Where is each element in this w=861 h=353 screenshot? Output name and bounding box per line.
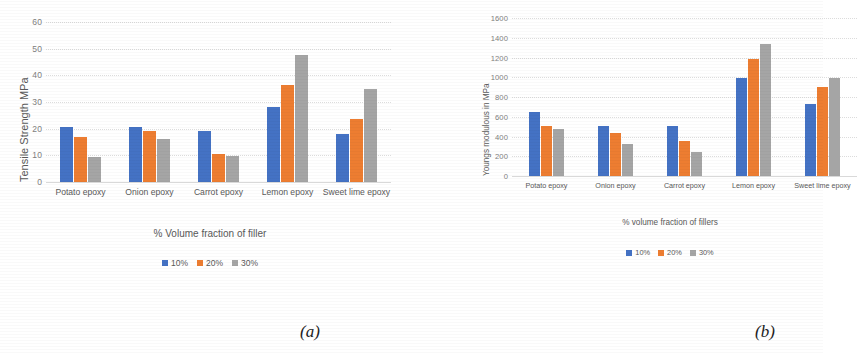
legend-label: 10% <box>171 258 188 268</box>
bar-group <box>512 18 581 176</box>
legend-label: 20% <box>667 248 682 257</box>
bar-group <box>322 22 391 182</box>
legend-swatch-icon <box>197 260 203 266</box>
legend-item: 20% <box>197 258 223 268</box>
bar-30pct <box>157 139 170 182</box>
y-axis-tick-label: 60 <box>32 17 42 27</box>
bar-10pct <box>60 127 73 182</box>
bar-10pct <box>529 112 540 176</box>
y-axis-tick-label: 1200 <box>491 53 508 62</box>
plot-area-b: 02004006008001000120014001600 <box>512 18 857 176</box>
legend-label: 10% <box>635 248 650 257</box>
y-axis-tick-label: 1000 <box>491 73 508 82</box>
bar-10pct <box>336 134 349 182</box>
y-axis-tick-label: 1600 <box>491 14 508 23</box>
y-axis-tick-label: 1400 <box>491 33 508 42</box>
y-axis-tick-label: 50 <box>32 44 42 54</box>
x-axis-line <box>512 176 857 177</box>
legend-item: 30% <box>232 258 258 268</box>
bar-10pct <box>736 78 747 176</box>
bar-10pct <box>129 127 142 182</box>
bar-group <box>581 18 650 176</box>
bar-20pct <box>541 126 552 176</box>
y-axis-tick-label: 600 <box>495 112 508 121</box>
bar-20pct <box>281 85 294 182</box>
bar-20pct <box>74 137 87 182</box>
y-axis-tick-label: 400 <box>495 132 508 141</box>
plot-area-a: 0102030405060 <box>46 22 391 182</box>
legend-item: 10% <box>626 248 650 257</box>
bar-10pct <box>805 104 816 176</box>
legend-swatch-icon <box>232 260 238 266</box>
bar-group <box>650 18 719 176</box>
bar-30pct <box>553 129 564 176</box>
legend-swatch-icon <box>690 250 696 256</box>
bar-group <box>253 22 322 182</box>
legend-swatch-icon <box>626 250 632 256</box>
legend-a: 10%20%30% <box>0 258 420 268</box>
bar-group <box>788 18 857 176</box>
legend-b: 10%20%30% <box>460 248 861 257</box>
figure-panel-b: Youngs modulous in MPa 02004006008001000… <box>460 0 861 300</box>
legend-item: 30% <box>690 248 714 257</box>
legend-item: 20% <box>658 248 682 257</box>
y-axis-tick-label: 200 <box>495 152 508 161</box>
bar-20pct <box>748 59 759 177</box>
legend-swatch-icon <box>162 260 168 266</box>
y-axis-tick-label: 0 <box>504 172 508 181</box>
bar-30pct <box>364 89 377 182</box>
bar-30pct <box>691 152 702 176</box>
bar-group <box>184 22 253 182</box>
legend-swatch-icon <box>658 250 664 256</box>
bar-30pct <box>226 156 239 182</box>
legend-item: 10% <box>162 258 188 268</box>
y-axis-tick-label: 10 <box>32 150 42 160</box>
x-axis-category-label: Sweet lime epoxy <box>780 181 861 190</box>
legend-label: 30% <box>241 258 258 268</box>
y-axis-tick-label: 20 <box>32 124 42 134</box>
bar-10pct <box>198 131 211 182</box>
legend-label: 20% <box>206 258 223 268</box>
x-axis-title-b: % volume fraction of fillers <box>460 218 861 227</box>
bar-10pct <box>267 107 280 182</box>
y-axis-tick-label: 40 <box>32 70 42 80</box>
bar-group <box>719 18 788 176</box>
bar-10pct <box>667 126 678 176</box>
panel-caption-a: (a) <box>300 322 320 342</box>
x-axis-title-a: % Volume fraction of filler <box>0 228 420 239</box>
bar-20pct <box>143 131 156 182</box>
bar-20pct <box>212 154 225 182</box>
y-axis-tick-label: 30 <box>32 97 42 107</box>
bar-30pct <box>829 78 840 176</box>
x-axis-line <box>46 182 391 183</box>
bar-group <box>115 22 184 182</box>
y-axis-tick-label: 800 <box>495 93 508 102</box>
bar-group <box>46 22 115 182</box>
x-axis-category-label: Sweet lime epoxy <box>314 187 400 198</box>
bar-30pct <box>760 44 771 176</box>
y-axis-tick-label: 0 <box>37 177 42 187</box>
y-axis-title-a: Tensile Strength MPa <box>18 77 30 182</box>
legend-label: 30% <box>699 248 714 257</box>
y-axis-title-b: Youngs modulous in MPa <box>482 83 491 176</box>
bar-20pct <box>817 87 828 176</box>
panel-caption-b: (b) <box>755 322 775 342</box>
bar-20pct <box>610 133 621 176</box>
bar-30pct <box>622 144 633 176</box>
bar-10pct <box>598 126 609 176</box>
figure-panel-a: Tensile Strength MPa 0102030405060 % Vol… <box>0 0 420 300</box>
bar-30pct <box>88 157 101 182</box>
bar-20pct <box>350 119 363 182</box>
bar-30pct <box>295 55 308 182</box>
bar-20pct <box>679 141 690 176</box>
